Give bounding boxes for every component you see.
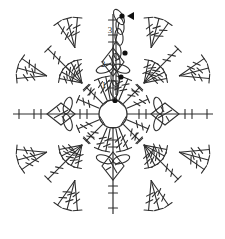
round-3-label: 3	[108, 25, 113, 35]
round-1-label: 1	[102, 80, 107, 90]
start-arrow-icon	[127, 12, 134, 20]
motif-diagram: 1 2 3	[0, 0, 225, 239]
round-2-label: 2	[101, 59, 106, 69]
round-3-marker-dot	[119, 13, 124, 18]
round-1-marker-dot	[118, 74, 123, 79]
crochet-chart-root: 1 2 3	[0, 0, 225, 239]
round-2-marker-dot	[122, 50, 127, 55]
center-ring	[99, 98, 127, 128]
